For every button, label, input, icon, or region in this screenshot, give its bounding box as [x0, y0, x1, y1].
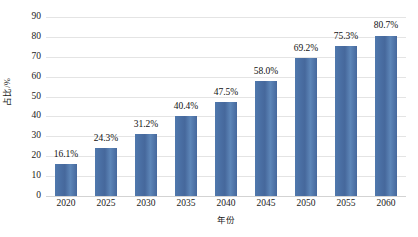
y-axis-tick-label: 60 — [32, 72, 42, 82]
bars-layer: 16.1%24.3%31.2%40.4%47.5%58.0%69.2%75.3%… — [46, 17, 406, 196]
bar[interactable] — [55, 164, 77, 196]
x-axis-tick-label: 2050 — [297, 199, 316, 209]
bar[interactable] — [295, 58, 317, 196]
x-axis-title: 年份 — [46, 213, 406, 225]
bar-value-label: 80.7% — [374, 21, 399, 31]
x-axis-tick-label: 2040 — [217, 199, 236, 209]
bar-group: 24.3% — [86, 17, 126, 196]
x-axis-tick-label: 2045 — [257, 199, 276, 209]
y-axis-tick-label: 10 — [32, 171, 42, 181]
bar-group: 16.1% — [46, 17, 86, 196]
x-axis-tick-label: 2035 — [177, 199, 196, 209]
bar[interactable] — [255, 81, 277, 196]
bar-value-label: 47.5% — [214, 88, 239, 98]
bar-group: 69.2% — [286, 17, 326, 196]
bar[interactable] — [335, 46, 357, 196]
x-axis-tick-label: 2055 — [337, 199, 356, 209]
y-axis-tick-label: 40 — [32, 112, 42, 122]
y-axis-tick-label: 30 — [32, 132, 42, 142]
y-axis-tick-label: 20 — [32, 151, 42, 161]
bar-group: 58.0% — [246, 17, 286, 196]
bar-value-label: 24.3% — [94, 134, 119, 144]
x-axis-tick-label: 2030 — [137, 199, 156, 209]
y-axis-tick-label: 0 — [36, 191, 41, 201]
bar[interactable] — [215, 102, 237, 196]
bar-value-label: 16.1% — [54, 150, 79, 160]
bar-group: 80.7% — [366, 17, 406, 196]
bar[interactable] — [175, 116, 197, 196]
bar-group: 75.3% — [326, 17, 366, 196]
y-axis-tick-label: 70 — [32, 52, 42, 62]
bar-value-label: 58.0% — [254, 67, 279, 77]
bar-value-label: 75.3% — [334, 32, 359, 42]
plot-area: 16.1%24.3%31.2%40.4%47.5%58.0%69.2%75.3%… — [46, 17, 406, 196]
x-axis-tick-label: 2025 — [97, 199, 116, 209]
bar[interactable] — [135, 134, 157, 196]
bar[interactable] — [95, 148, 117, 196]
bar-group: 40.4% — [166, 17, 206, 196]
y-axis-tick-label: 50 — [32, 92, 42, 102]
x-axis-tick-labels: 202020252030203520402045205020552060 — [46, 199, 406, 213]
x-axis-tick-label: 2060 — [377, 199, 396, 209]
cropped-caption — [0, 231, 418, 237]
y-axis-tick-labels: 0102030405060708090 — [0, 17, 44, 196]
bar-group: 47.5% — [206, 17, 246, 196]
bar-value-label: 31.2% — [134, 120, 159, 130]
y-axis-tick-label: 80 — [32, 32, 42, 42]
bar-value-label: 69.2% — [294, 44, 319, 54]
y-axis-tick-label: 90 — [32, 12, 42, 22]
gridline — [46, 196, 406, 197]
bar[interactable] — [375, 36, 397, 197]
bar-chart-figure: 占比/% 0102030405060708090 16.1%24.3%31.2%… — [0, 0, 418, 237]
bar-group: 31.2% — [126, 17, 166, 196]
x-axis-tick-label: 2020 — [57, 199, 76, 209]
bar-value-label: 40.4% — [174, 102, 199, 112]
